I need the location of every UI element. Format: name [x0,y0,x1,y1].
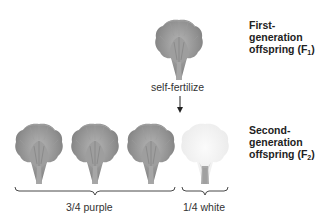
brace-purple-group [14,186,176,196]
purple-flower-icon [154,18,204,84]
f1-label: First- generation offspring (F1) [249,19,315,55]
purple-flower-icon [126,122,176,188]
f2-label: Second- generation offspring (F2) [249,124,315,160]
down-arrow-icon [175,96,185,114]
purple-flower-icon [14,122,64,188]
purple-flower-icon [70,122,120,188]
white-flower-icon [180,122,230,188]
brace-white-group [181,186,229,196]
purple-ratio-label: 3/4 purple [66,201,113,213]
self-fertilize-label: self-fertilize [151,81,204,93]
f2-flower-purple [14,122,64,188]
white-ratio-label: 1/4 white [183,201,225,213]
f2-flower-purple [126,122,176,188]
f1-flower [154,18,204,84]
f2-flower-white [180,122,230,188]
f2-flower-purple [70,122,120,188]
